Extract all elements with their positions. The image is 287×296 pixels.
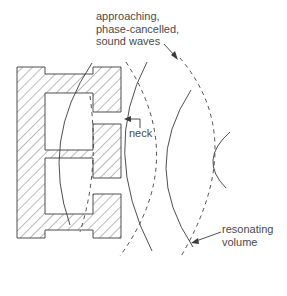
waves-label-line-1: approaching, xyxy=(96,10,179,23)
neck-label: neck xyxy=(129,127,152,140)
waves-label: approaching, phase-cancelled, sound wave… xyxy=(96,10,179,48)
volume-pointer xyxy=(191,232,221,244)
volume-label: resonating volume xyxy=(222,223,273,248)
volume-label-line-1: resonating xyxy=(222,223,273,236)
volume-label-line-2: volume xyxy=(222,236,273,249)
waves-label-line-3: sound waves xyxy=(96,35,179,48)
waves-label-line-2: phase-cancelled, xyxy=(96,23,179,36)
resonator-wall xyxy=(17,67,121,238)
